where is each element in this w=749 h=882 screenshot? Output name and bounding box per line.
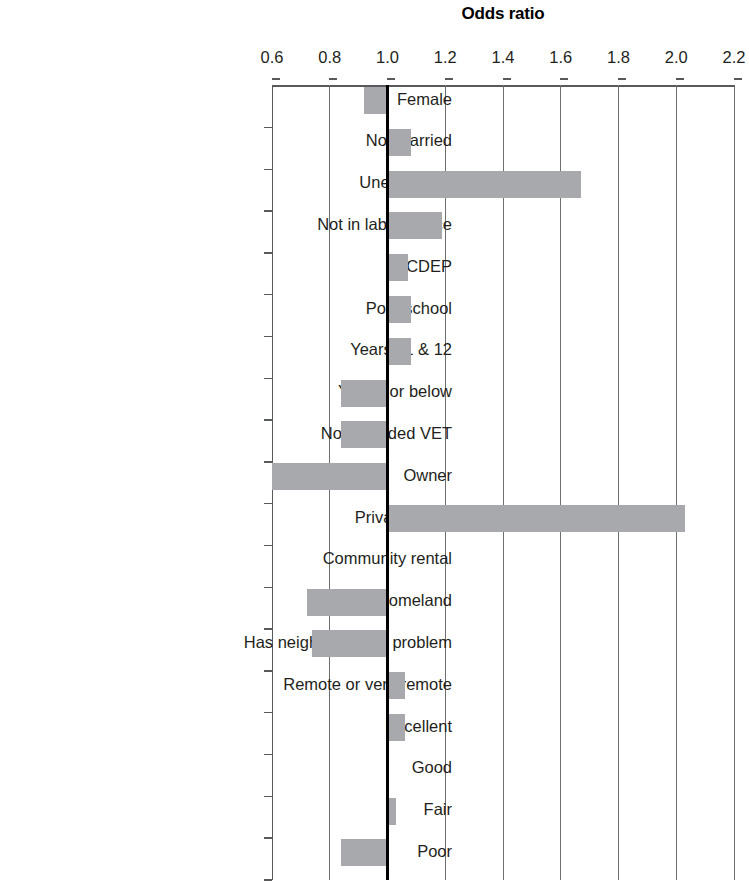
category-label: Not attended VET <box>32 424 452 443</box>
category-row: Excellent <box>272 714 734 756</box>
y-tick-mark <box>264 503 272 505</box>
category-label: Poor <box>32 842 452 861</box>
category-row: Not married <box>272 129 734 171</box>
y-tick-mark <box>264 336 272 338</box>
y-tick-mark <box>264 587 272 589</box>
y-tick-mark <box>264 127 272 129</box>
category-label: Year 9 or below <box>32 382 452 401</box>
bar <box>388 338 411 365</box>
y-tick-mark <box>264 419 272 421</box>
bar <box>341 839 387 866</box>
bar <box>388 505 685 532</box>
category-row: CDEP <box>272 254 734 296</box>
y-tick-mark <box>264 712 272 714</box>
category-row: Not in labour force <box>272 212 734 254</box>
y-tick-mark <box>264 252 272 254</box>
bar <box>307 589 388 616</box>
category-row: Years 11 & 12 <box>272 338 734 380</box>
category-row: Live in homeland <box>272 589 734 631</box>
bar <box>341 421 387 448</box>
category-label: Community rental <box>32 549 452 568</box>
x-tick-mark-2.0 <box>676 78 684 80</box>
category-row: Remote or very remote <box>272 672 734 714</box>
y-tick-mark <box>264 210 272 212</box>
category-row: Year 9 or below <box>272 380 734 422</box>
bar <box>388 296 411 323</box>
category-label: Female <box>32 90 452 109</box>
category-label: Live in homeland <box>32 591 452 610</box>
y-tick-mark <box>264 796 272 798</box>
bar <box>388 714 405 741</box>
y-tick-mark <box>264 461 272 463</box>
page-title: Odds ratio <box>272 4 734 24</box>
y-tick-mark <box>264 294 272 296</box>
y-tick-mark <box>264 378 272 380</box>
y-tick-mark <box>264 837 272 839</box>
x-tick-mark-1.4 <box>503 78 511 80</box>
category-label: Owner <box>32 466 452 485</box>
category-row: Community rental <box>272 547 734 589</box>
x-tick-label-2.0: 2.0 <box>665 48 688 67</box>
x-tick-label-2.2: 2.2 <box>723 48 746 67</box>
y-tick-mark <box>264 879 272 881</box>
x-tick-label-1.4: 1.4 <box>492 48 515 67</box>
x-tick-mark-1.0 <box>387 78 395 80</box>
category-row: Unemployed <box>272 171 734 213</box>
x-tick-mark-1.8 <box>618 78 626 80</box>
x-tick-label-1.8: 1.8 <box>607 48 630 67</box>
category-row: Not attended VET <box>272 421 734 463</box>
category-row: Poor <box>272 839 734 881</box>
bar <box>388 212 443 239</box>
bar <box>312 630 387 657</box>
category-row: Has neighbourhood problem <box>272 630 734 672</box>
bar <box>388 254 408 281</box>
bar <box>364 87 387 114</box>
y-tick-mark <box>264 754 272 756</box>
x-tick-mark-2.2 <box>734 78 742 80</box>
category-label: Has neighbourhood problem <box>32 633 452 652</box>
category-row: Private rental <box>272 505 734 547</box>
category-row: Owner <box>272 463 734 505</box>
bar <box>388 171 581 198</box>
x-tick-label-1.0: 1.0 <box>376 48 399 67</box>
x-tick-mark-0.8 <box>329 78 337 80</box>
x-tick-label-0.6: 0.6 <box>261 48 284 67</box>
bar <box>388 798 397 825</box>
bar <box>341 380 387 407</box>
x-tick-label-1.6: 1.6 <box>549 48 572 67</box>
y-tick-mark <box>264 545 272 547</box>
bar <box>388 129 411 156</box>
x-tick-mark-1.2 <box>445 78 453 80</box>
x-axis-tick-labels: 0.60.81.01.21.41.61.82.02.2 <box>0 48 749 72</box>
category-row: Fair <box>272 798 734 840</box>
y-tick-mark <box>264 169 272 171</box>
x-tick-label-0.8: 0.8 <box>318 48 341 67</box>
category-row: Post-school <box>272 296 734 338</box>
x-tick-mark-0.6 <box>272 78 280 80</box>
bar <box>272 463 388 490</box>
category-row: Female <box>272 87 734 129</box>
reference-line-1.0 <box>386 85 389 880</box>
plot-area: FemaleNot marriedUnemployedNot in labour… <box>272 85 734 880</box>
y-tick-mark <box>264 628 272 630</box>
category-label: Good <box>32 758 452 777</box>
category-row: Good <box>272 756 734 798</box>
x-tick-label-1.2: 1.2 <box>434 48 457 67</box>
y-tick-mark <box>264 670 272 672</box>
x-tick-mark-1.6 <box>560 78 568 80</box>
bar <box>388 672 405 699</box>
